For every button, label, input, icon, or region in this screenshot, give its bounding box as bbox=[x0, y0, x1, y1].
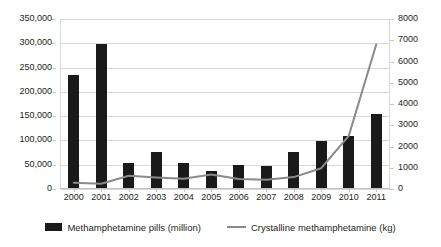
right-axis-tick-label: 7000 bbox=[398, 35, 418, 44]
left-axis-tick-mark bbox=[52, 116, 56, 117]
right-axis-tick-mark bbox=[390, 125, 394, 126]
left-axis: 050,000100,000150,000200,000250,000300,0… bbox=[0, 19, 56, 189]
baseline bbox=[60, 188, 390, 189]
x-axis-tick-mark bbox=[129, 189, 130, 192]
right-axis-tick-label: 1000 bbox=[398, 163, 418, 172]
right-axis-tick-mark bbox=[390, 189, 394, 190]
x-axis-tick-mark bbox=[239, 189, 240, 192]
x-axis-tick-label: 2009 bbox=[308, 192, 336, 202]
right-axis-tick-label: 6000 bbox=[398, 57, 418, 66]
x-axis-tick-mark bbox=[294, 189, 295, 192]
x-axis-tick-label: 2005 bbox=[198, 192, 226, 202]
right-axis-tick-label: 2000 bbox=[398, 142, 418, 151]
left-axis-tick-label: 250,000 bbox=[19, 63, 52, 72]
x-axis: 2000200120022003200420052006200720082009… bbox=[60, 192, 390, 208]
left-axis-tick-label: 350,000 bbox=[19, 14, 52, 23]
bar-swatch-icon bbox=[45, 223, 62, 231]
x-axis-tick-mark bbox=[156, 189, 157, 192]
x-axis-tick-mark bbox=[321, 189, 322, 192]
x-axis-tick-label: 2004 bbox=[170, 192, 198, 202]
right-axis-tick-mark bbox=[390, 83, 394, 84]
left-axis-tick-mark bbox=[52, 43, 56, 44]
left-axis-tick-label: 50,000 bbox=[24, 160, 52, 169]
right-axis-tick-mark bbox=[390, 147, 394, 148]
line-path bbox=[74, 45, 377, 184]
right-axis-tick-label: 5000 bbox=[398, 78, 418, 87]
x-axis-tick-label: 2003 bbox=[143, 192, 171, 202]
x-axis-tick-mark bbox=[211, 189, 212, 192]
x-axis-tick-label: 2007 bbox=[253, 192, 281, 202]
right-axis-tick-label: 3000 bbox=[398, 120, 418, 129]
left-axis-tick-label: 300,000 bbox=[19, 38, 52, 47]
left-axis-tick-mark bbox=[52, 68, 56, 69]
x-axis-tick-mark bbox=[376, 189, 377, 192]
left-axis-tick-mark bbox=[52, 189, 56, 190]
x-axis-tick-mark bbox=[184, 189, 185, 192]
right-axis-tick-mark bbox=[390, 104, 394, 105]
x-axis-tick-label: 2008 bbox=[280, 192, 308, 202]
x-axis-tick-mark bbox=[74, 189, 75, 192]
chart-legend: Methamphetamine pills (million) Crystall… bbox=[0, 218, 441, 236]
right-axis-tick-mark bbox=[390, 19, 394, 20]
line-swatch-icon bbox=[227, 226, 246, 228]
right-axis: 010002000300040005000600070008000 bbox=[394, 19, 441, 189]
x-axis-tick-label: 2010 bbox=[335, 192, 363, 202]
x-axis-tick-mark bbox=[101, 189, 102, 192]
right-axis-tick-mark bbox=[390, 40, 394, 41]
x-axis-tick-mark bbox=[349, 189, 350, 192]
legend-label-bars: Methamphetamine pills (million) bbox=[67, 222, 201, 233]
left-axis-tick-label: 200,000 bbox=[19, 87, 52, 96]
right-axis-tick-label: 0 bbox=[398, 184, 403, 193]
x-axis-tick-label: 2006 bbox=[225, 192, 253, 202]
left-axis-tick-label: 150,000 bbox=[19, 111, 52, 120]
plot-area bbox=[60, 19, 390, 189]
left-axis-tick-mark bbox=[52, 165, 56, 166]
left-axis-tick-label: 100,000 bbox=[19, 135, 52, 144]
x-axis-tick-mark bbox=[266, 189, 267, 192]
legend-item-bars: Methamphetamine pills (million) bbox=[45, 222, 201, 233]
left-axis-tick-mark bbox=[52, 92, 56, 93]
line-series bbox=[60, 19, 390, 189]
right-axis-tick-mark bbox=[390, 62, 394, 63]
chart-container: 050,000100,000150,000200,000250,000300,0… bbox=[0, 0, 441, 247]
left-axis-tick-mark bbox=[52, 19, 56, 20]
right-axis-tick-label: 8000 bbox=[398, 14, 418, 23]
legend-label-line: Crystalline methamphetamine (kg) bbox=[251, 222, 396, 233]
gridline bbox=[60, 189, 390, 190]
left-axis-tick-mark bbox=[52, 140, 56, 141]
x-axis-tick-label: 2002 bbox=[115, 192, 143, 202]
right-axis-tick-mark bbox=[390, 168, 394, 169]
x-axis-tick-label: 2001 bbox=[88, 192, 116, 202]
x-axis-tick-label: 2000 bbox=[60, 192, 88, 202]
x-axis-tick-label: 2011 bbox=[363, 192, 391, 202]
right-axis-tick-label: 4000 bbox=[398, 99, 418, 108]
legend-item-line: Crystalline methamphetamine (kg) bbox=[227, 222, 396, 233]
